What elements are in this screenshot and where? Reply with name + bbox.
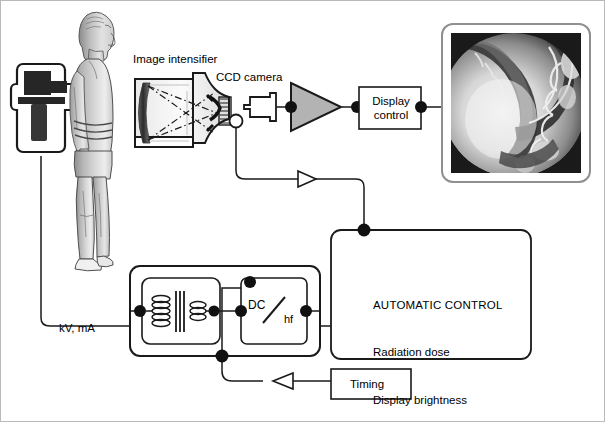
patient-figure xyxy=(70,12,115,271)
diagram-canvas: Image intensifier CCD camera kV, mA Disp… xyxy=(0,0,605,422)
wire-generator-to-timing xyxy=(222,356,263,381)
automatic-control-item-0: Radiation dose xyxy=(373,345,502,361)
display-output-node xyxy=(415,101,427,113)
ccd-camera-icon xyxy=(230,93,277,128)
label-ccd-camera: CCD camera xyxy=(216,70,282,84)
diagram-svg xyxy=(1,1,605,422)
generator-input-node xyxy=(134,305,146,317)
ccd-output-node xyxy=(230,115,243,128)
dc-hf-output-node xyxy=(300,305,312,317)
amplifier-input-node xyxy=(285,101,297,113)
label-kv-ma: kV, mA xyxy=(59,321,95,335)
monitor-frame xyxy=(442,24,590,182)
control-input-node xyxy=(358,224,371,237)
feedback-amplifier-icon xyxy=(298,171,316,187)
generator-bottom-node xyxy=(216,350,229,363)
label-display-control-line1: Display xyxy=(367,94,415,108)
radiograph-image xyxy=(442,33,586,177)
label-image-intensifier: Image intensifier xyxy=(133,52,217,66)
dc-hf-top-node xyxy=(244,276,256,288)
timing-arrow-icon xyxy=(273,373,293,389)
image-intensifier-icon xyxy=(135,73,231,147)
dc-hf-input-node xyxy=(235,305,247,317)
transformer-output-node xyxy=(209,306,220,317)
automatic-control-heading: AUTOMATIC CONTROL xyxy=(373,298,502,314)
automatic-control-item-1: Display brightness xyxy=(373,393,502,409)
label-display-control-line2: control xyxy=(367,108,415,122)
label-dc: DC xyxy=(248,298,265,313)
label-hf: hf xyxy=(284,313,293,326)
amplifier-icon xyxy=(285,83,363,131)
